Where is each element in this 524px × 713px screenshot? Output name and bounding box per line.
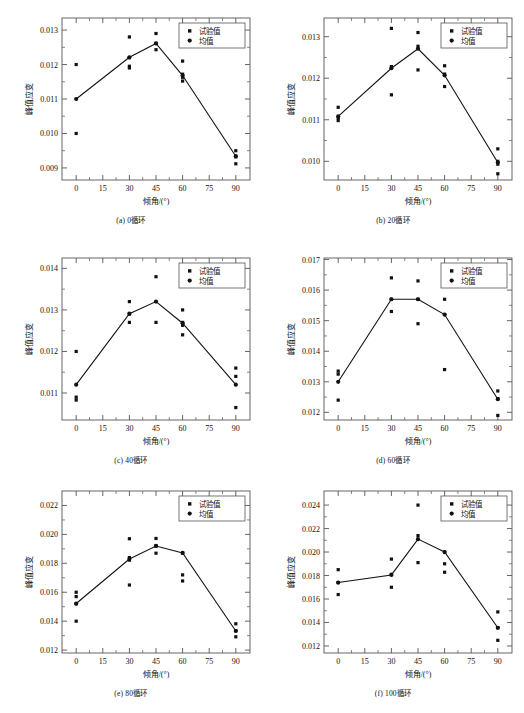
data-point-square (181, 308, 184, 311)
x-tick-label: 30 (125, 184, 133, 193)
y-tick-label: 0.013 (302, 33, 320, 42)
data-point-square (443, 571, 446, 574)
x-tick-label: 15 (99, 424, 107, 433)
x-tick-label: 90 (232, 424, 240, 433)
x-axis-title: 倾角/(°) (405, 436, 432, 446)
series-test-values (337, 503, 500, 641)
legend: 试验值均值 (179, 23, 245, 48)
subplot-a: 01530456075900.0090.0100.0110.0120.013试验… (0, 0, 262, 240)
data-point-square (416, 561, 419, 564)
y-tick-label: 0.012 (40, 646, 58, 655)
x-axis-title: 倾角/(°) (405, 196, 432, 206)
mean-line (338, 299, 498, 399)
data-point-circle (154, 41, 158, 45)
data-point-square (443, 64, 446, 67)
x-tick-label: 90 (232, 184, 240, 193)
x-tick-label: 15 (361, 657, 369, 666)
data-point-square (337, 399, 340, 402)
data-point-square (181, 573, 184, 576)
y-axis-title: 峰值应变 (286, 556, 296, 588)
y-axis-title: 峰值应变 (24, 323, 34, 355)
y-tick-label: 0.011 (302, 116, 320, 125)
data-point-circle (443, 312, 447, 316)
data-point-circle (127, 557, 131, 561)
x-tick-label: 90 (494, 184, 502, 193)
plot-a: 01530456075900.0090.0100.0110.0120.013试验… (0, 0, 262, 206)
y-axis: 0.0100.0110.0120.013 (302, 33, 512, 167)
data-point-square (75, 398, 78, 401)
data-point-circle (336, 380, 340, 384)
x-tick-label: 45 (152, 424, 160, 433)
data-point-circle (389, 297, 393, 301)
data-point-circle (74, 97, 78, 101)
x-tick-label: 45 (414, 184, 422, 193)
data-point-square (154, 48, 157, 51)
y-axis-title: 峰值应变 (24, 556, 34, 588)
data-point-square (128, 300, 131, 303)
y-tick-label: 0.016 (40, 588, 58, 597)
legend-label-test-values: 试验值 (199, 26, 221, 36)
y-tick-label: 0.014 (302, 347, 320, 356)
y-axis-title: 峰值应变 (24, 83, 34, 115)
data-point-circle (234, 154, 238, 158)
data-point-square (154, 321, 157, 324)
plot-b: 01530456075900.0100.0110.0120.013试验值均值倾角… (262, 0, 524, 206)
plot-e: 01530456075900.0120.0140.0160.0180.0200.… (0, 473, 262, 679)
x-tick-label: 0 (336, 184, 340, 193)
x-tick-label: 60 (441, 657, 449, 666)
x-tick-label: 75 (205, 184, 213, 193)
x-tick-label: 0 (74, 424, 78, 433)
data-point-square (75, 620, 78, 623)
data-point-square (128, 321, 131, 324)
plot-f: 01530456075900.0120.0140.0160.0180.0200.… (262, 473, 524, 679)
data-point-square (75, 63, 78, 66)
y-axis-title: 峰值应变 (286, 83, 296, 115)
data-point-square (181, 59, 184, 62)
y-tick-label: 0.012 (40, 347, 58, 356)
data-point-circle (443, 550, 447, 554)
y-tick-label: 0.022 (302, 525, 320, 534)
x-tick-label: 60 (441, 424, 449, 433)
x-tick-label: 0 (74, 657, 78, 666)
data-point-square (496, 639, 499, 642)
subplot-b: 01530456075900.0100.0110.0120.013试验值均值倾角… (262, 0, 524, 240)
data-point-square (234, 366, 237, 369)
data-point-square (496, 389, 499, 392)
x-tick-label: 75 (467, 424, 475, 433)
subplot-caption-b: (b) 20循环 (262, 214, 524, 225)
x-tick-label: 30 (125, 657, 133, 666)
data-point-square (75, 396, 78, 399)
subplot-caption-e: (e) 80循环 (0, 687, 262, 698)
data-point-square (234, 622, 237, 625)
mean-line (76, 302, 236, 385)
data-point-square (154, 537, 157, 540)
plot-d: 01530456075900.0120.0130.0140.0150.0160.… (262, 240, 524, 446)
data-point-square (390, 586, 393, 589)
data-point-square (390, 93, 393, 96)
data-point-circle (416, 47, 420, 51)
x-tick-label: 30 (387, 424, 395, 433)
y-tick-label: 0.012 (40, 61, 58, 70)
subplot-e: 01530456075900.0120.0140.0160.0180.0200.… (0, 473, 262, 713)
y-tick-label: 0.013 (40, 26, 58, 35)
series-mean-values (74, 41, 238, 158)
data-point-square (234, 149, 237, 152)
data-point-square (337, 593, 340, 596)
x-axis-title: 倾角/(°) (143, 669, 170, 679)
series-test-values (75, 504, 238, 639)
mean-line (338, 49, 498, 163)
data-point-circle (336, 114, 340, 118)
data-point-square (496, 610, 499, 613)
x-tick-label: 45 (414, 424, 422, 433)
x-tick-label: 60 (179, 424, 187, 433)
subplot-d: 01530456075900.0120.0130.0140.0150.0160.… (262, 240, 524, 473)
data-point-circle (74, 383, 78, 387)
data-point-circle (154, 544, 158, 548)
data-point-square (443, 85, 446, 88)
y-tick-label: 0.010 (302, 157, 320, 166)
data-point-square (75, 350, 78, 353)
data-point-circle (496, 626, 500, 630)
legend: 试验值均值 (441, 496, 507, 521)
data-point-square (128, 66, 131, 69)
data-point-circle (127, 312, 131, 316)
